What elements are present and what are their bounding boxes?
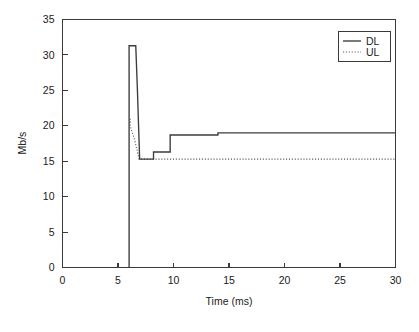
y-tick-label: 35 (43, 13, 55, 25)
data-series-group (129, 46, 395, 268)
chart-legend[interactable]: DL UL (339, 32, 391, 62)
x-tick-label: 10 (168, 274, 180, 286)
x-tick-label: 20 (279, 274, 291, 286)
y-tick-label: 25 (43, 84, 55, 96)
y-tick-label: 10 (43, 190, 55, 202)
legend-border (339, 32, 391, 62)
y-axis-title: Mb/s (16, 132, 28, 155)
x-tick-label: 25 (334, 274, 346, 286)
y-tick-label: 20 (43, 119, 55, 131)
x-tick-label: 0 (60, 274, 66, 286)
x-tick-label: 15 (223, 274, 235, 286)
y-tick-label: 30 (43, 49, 55, 61)
x-tick-label: 30 (390, 274, 402, 286)
legend-label-ul: UL (366, 46, 380, 58)
y-tick-label: 0 (49, 261, 55, 273)
y-tick-label: 15 (43, 155, 55, 167)
chart-figure: 05101520253035 051015202530 Time (ms) Mb… (0, 0, 419, 332)
y-tick-label: 5 (49, 226, 55, 238)
line-chart: 05101520253035 051015202530 Time (ms) Mb… (0, 0, 419, 332)
y-axis-ticks: 05101520253035 (43, 13, 68, 273)
series-line-dl (129, 46, 395, 268)
x-axis-title: Time (ms) (206, 295, 253, 307)
x-tick-label: 5 (115, 274, 121, 286)
x-axis-ticks: 051015202530 (60, 263, 402, 286)
